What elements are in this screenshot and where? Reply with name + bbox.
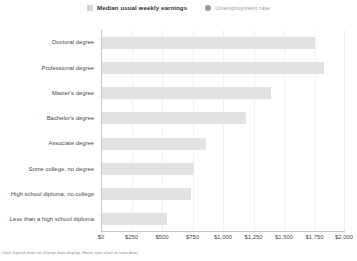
bar-row-high-school-diploma[interactable] (102, 182, 191, 207)
x-tick-250: $250 (125, 234, 138, 240)
chart-container: Median usual weekly earnings Unemploymen… (0, 0, 357, 261)
y-axis-label-high-school-diploma: High school diploma, no college (0, 182, 98, 207)
y-axis-label-less-than-high-school: Less than a high school diploma (0, 207, 98, 232)
legend-square-marker-icon (87, 5, 93, 11)
chart-legend: Median usual weekly earnings Unemploymen… (0, 2, 357, 14)
x-tick-1250: $1,250 (244, 234, 262, 240)
bar-row-less-than-high-school[interactable] (102, 207, 167, 232)
legend-item-unemployment-rate[interactable]: Unemployment rate (205, 5, 270, 11)
x-tick-750: $750 (186, 234, 199, 240)
bar-high-school-diploma[interactable] (102, 188, 191, 200)
bar-professional-degree[interactable] (102, 62, 324, 74)
x-tick-0: $0 (98, 234, 105, 240)
y-axis-label-professional-degree: Professional degree (0, 55, 98, 80)
bar-bachelors-degree[interactable] (102, 112, 246, 124)
legend-label-unemployment: Unemployment rate (215, 5, 270, 11)
bar-row-masters-degree[interactable] (102, 81, 271, 106)
bar-doctoral-degree[interactable] (102, 37, 315, 49)
x-tick-500: $500 (155, 234, 168, 240)
y-axis-label-doctoral-degree: Doctoral degree (0, 30, 98, 55)
x-tick-2000: $2,000 (335, 234, 353, 240)
x-tick-1000: $1,000 (214, 234, 232, 240)
x-tick-1750: $1,750 (305, 234, 323, 240)
y-axis-label-some-college: Some college, no degree (0, 156, 98, 181)
plot-area (101, 30, 345, 232)
bar-row-bachelors-degree[interactable] (102, 106, 246, 131)
x-tick-1500: $1,500 (275, 234, 293, 240)
gridline-2000 (344, 30, 345, 232)
bar-masters-degree[interactable] (102, 87, 271, 99)
y-axis-label-masters-degree: Master's degree (0, 81, 98, 106)
bar-row-professional-degree[interactable] (102, 55, 324, 80)
bar-some-college[interactable] (102, 163, 194, 175)
chart-footer-note: Click legend items to change data displa… (2, 250, 138, 255)
legend-item-median-usual-weekly-earnings[interactable]: Median usual weekly earnings (87, 5, 187, 11)
legend-label-earnings: Median usual weekly earnings (97, 5, 187, 11)
bar-associate-degree[interactable] (102, 138, 206, 150)
y-axis-category-labels: Doctoral degree Professional degree Mast… (0, 30, 98, 232)
y-axis-label-associate-degree: Associate degree (0, 131, 98, 156)
bar-less-than-high-school[interactable] (102, 213, 167, 225)
bar-row-doctoral-degree[interactable] (102, 30, 315, 55)
legend-circle-marker-icon (205, 5, 211, 11)
bar-row-associate-degree[interactable] (102, 131, 206, 156)
y-axis-label-bachelors-degree: Bachelor's degree (0, 106, 98, 131)
x-axis-tick-labels: $0 $250 $500 $750 $1,000 $1,250 $1,500 $… (101, 234, 345, 246)
bar-row-some-college[interactable] (102, 156, 194, 181)
